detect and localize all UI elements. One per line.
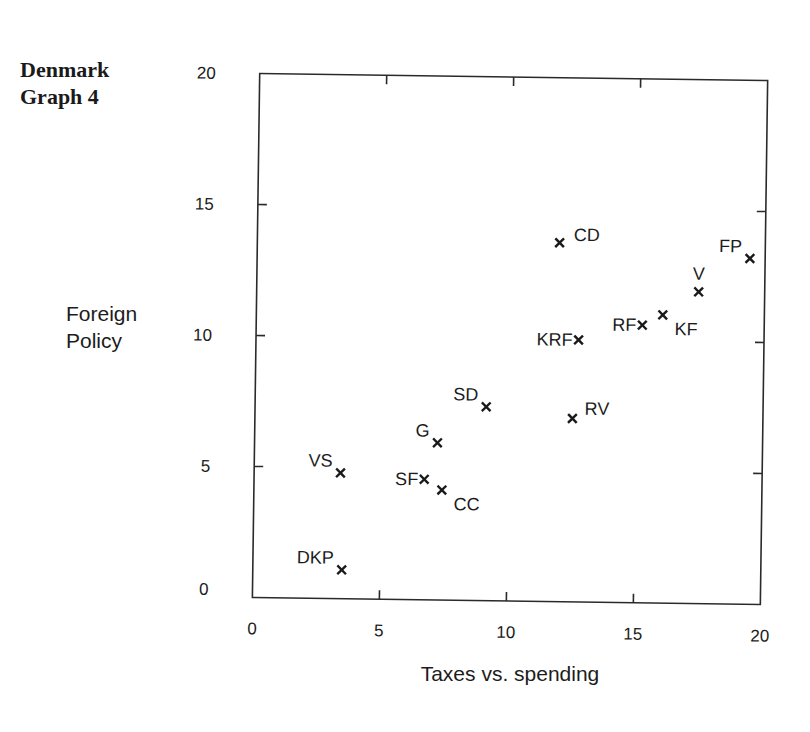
- x-marker-icon: [659, 311, 666, 318]
- x-marker-icon: [575, 336, 582, 343]
- x-marker-icon: [438, 486, 445, 493]
- point-label: CD: [574, 225, 600, 245]
- x-tick-label: 10: [496, 623, 515, 642]
- x-marker-icon: [556, 239, 563, 246]
- x-marker-icon: [434, 439, 441, 446]
- x-marker-icon: [421, 476, 428, 483]
- data-point: RV: [569, 398, 610, 422]
- data-point: CC: [438, 486, 480, 514]
- point-label: RV: [584, 399, 609, 419]
- plot-area: 0510152005101520 CDFPVKFRFKRFSDRVGVSSFCC…: [189, 64, 777, 646]
- x-marker-icon: [695, 288, 702, 295]
- y-tick-label: 0: [199, 580, 209, 599]
- point-label: RF: [612, 315, 636, 335]
- data-point: SF: [395, 469, 428, 489]
- data-point: FP: [719, 236, 754, 262]
- data-point: CD: [556, 225, 600, 247]
- point-label: V: [693, 264, 705, 284]
- x-tick-label: 0: [247, 619, 257, 638]
- data-point: DKP: [297, 547, 346, 573]
- y-tick-label: 5: [201, 457, 211, 476]
- y-tick-label: 15: [195, 195, 214, 214]
- x-tick-label: 15: [623, 625, 642, 644]
- point-label: KRF: [536, 329, 572, 350]
- x-tick-label: 20: [750, 626, 769, 645]
- scatter-plot: Foreign Policy Taxes vs. spending 051015…: [0, 0, 810, 732]
- x-marker-icon: [569, 415, 576, 422]
- data-point: KF: [659, 311, 698, 339]
- point-label: CC: [454, 494, 480, 514]
- point-label: DKP: [297, 547, 334, 568]
- data-point: SD: [453, 384, 490, 410]
- data-point: KRF: [536, 329, 582, 350]
- x-marker-icon: [337, 469, 344, 476]
- data-point: VS: [308, 450, 344, 476]
- point-label: SF: [395, 469, 418, 489]
- data-point: V: [693, 264, 705, 296]
- x-tick-label: 5: [374, 621, 384, 640]
- point-label: KF: [674, 319, 697, 339]
- x-marker-icon: [338, 566, 345, 573]
- x-marker-icon: [639, 322, 646, 329]
- x-marker-icon: [483, 403, 490, 410]
- x-axis-label: Taxes vs. spending: [421, 662, 600, 685]
- x-marker-icon: [746, 255, 753, 262]
- point-label: FP: [719, 236, 742, 256]
- point-label: VS: [309, 450, 333, 470]
- point-label: G: [415, 420, 429, 440]
- y-axis-label-line-1: Foreign: [66, 302, 137, 325]
- point-label: SD: [453, 384, 478, 404]
- y-tick-label: 20: [197, 64, 216, 83]
- y-tick-label: 10: [193, 326, 212, 345]
- y-axis-label-line-2: Policy: [66, 329, 123, 352]
- data-point: RF: [612, 315, 646, 335]
- data-point: G: [415, 420, 441, 446]
